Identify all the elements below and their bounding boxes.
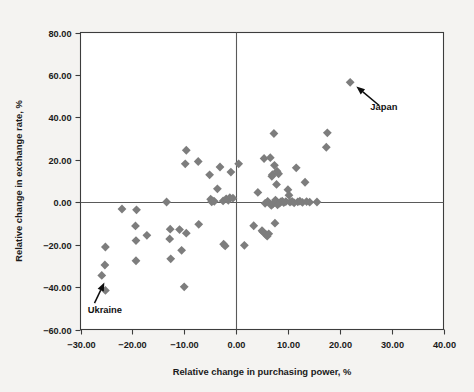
y-tick-label: 40.00 bbox=[49, 113, 72, 123]
y-tick-label: 0.00 bbox=[54, 198, 72, 208]
x-tick-label: −20.00 bbox=[118, 340, 146, 350]
y-tick-label: −40.00 bbox=[43, 283, 71, 293]
y-tick-label: 60.00 bbox=[49, 71, 72, 81]
x-tick-label: 10.00 bbox=[277, 340, 300, 350]
y-tick-label: −60.00 bbox=[43, 326, 71, 336]
y-axis-title: Relative change in exchange rate, % bbox=[13, 100, 24, 262]
annotation-label-japan: Japan bbox=[370, 101, 397, 112]
x-tick-label: 20.00 bbox=[329, 340, 352, 350]
scatter-plot: −30.00−20.00−10.000.0010.0020.0030.0040.… bbox=[0, 0, 474, 392]
y-tick-label: −20.00 bbox=[43, 241, 71, 251]
x-axis-title: Relative change in purchasing power, % bbox=[173, 366, 352, 377]
chart-figure: −30.00−20.00−10.000.0010.0020.0030.0040.… bbox=[0, 0, 474, 392]
x-tick-label: −10.00 bbox=[170, 340, 198, 350]
y-tick-label: 80.00 bbox=[49, 29, 72, 39]
plot-area-frame bbox=[81, 33, 444, 330]
y-tick-label: 20.00 bbox=[49, 156, 72, 166]
annotation-label-ukraine: Ukraine bbox=[88, 304, 122, 315]
x-tick-label: 30.00 bbox=[381, 340, 404, 350]
x-tick-label: 40.00 bbox=[433, 340, 456, 350]
x-tick-label: 0.00 bbox=[228, 340, 246, 350]
x-tick-label: −30.00 bbox=[67, 340, 95, 350]
